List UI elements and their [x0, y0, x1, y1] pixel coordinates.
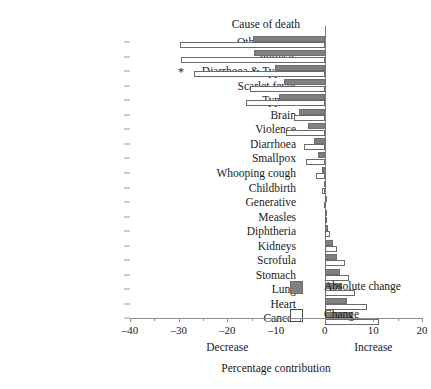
bar-absolute-change: [253, 36, 325, 42]
bar-absolute-change: [322, 167, 325, 173]
bar-change: [324, 202, 326, 208]
bar-change: [306, 159, 324, 165]
bar-absolute-change: [254, 50, 325, 56]
bar-absolute-change: [325, 254, 338, 260]
x-minor-tick: [203, 318, 204, 321]
bar-absolute-change: [279, 94, 325, 100]
bar-absolute-change: [325, 269, 341, 275]
bar-change: [322, 188, 325, 194]
bar-absolute-change: [324, 181, 326, 187]
bar-absolute-change: [325, 298, 347, 304]
x-axis-title: Percentage contribution: [221, 362, 331, 374]
chart-figure: Cause of death Other causesPhthisisDiarr…: [0, 0, 431, 389]
bar-absolute-change: [299, 109, 324, 115]
bar-change: [325, 246, 338, 252]
bar-change: [325, 231, 331, 237]
x-tick: [422, 318, 423, 322]
bar-absolute-change: [325, 196, 327, 202]
bar-change: [325, 260, 345, 266]
x-minor-tick: [154, 318, 155, 321]
x-tick: [276, 318, 277, 322]
bar-change: [316, 173, 325, 179]
bar-change: [181, 57, 325, 63]
x-minor-tick: [349, 318, 350, 321]
asterisk-annotation: *: [178, 67, 184, 77]
bar-change: [246, 100, 325, 106]
x-tick: [179, 318, 180, 322]
bar-change: [180, 42, 325, 48]
x-minor-tick: [300, 318, 301, 321]
x-tick-label: –40: [122, 324, 139, 336]
bar-absolute-change: [284, 79, 324, 85]
bar-change: [325, 217, 327, 223]
bar-change: [286, 130, 325, 136]
bar-absolute-change: [325, 210, 327, 216]
plot-area: * Absolute change Change: [130, 26, 422, 318]
bar-absolute-change: [325, 240, 333, 246]
x-tick-label: 10: [368, 324, 379, 336]
x-tick: [130, 318, 131, 322]
x-tick-label: 20: [417, 324, 428, 336]
x-axis-sublabel-increase: Increase: [354, 341, 392, 353]
x-tick: [325, 318, 326, 322]
bar-absolute-change: [308, 123, 325, 129]
bar-absolute-change: [318, 152, 325, 158]
x-minor-tick: [252, 318, 253, 321]
bar-change: [194, 71, 324, 77]
x-tick: [227, 318, 228, 322]
bar-change: [304, 144, 325, 150]
x-tick-label: 0: [322, 324, 328, 336]
x-minor-tick: [398, 318, 399, 321]
legend-label-absolute-change: Absolute change: [324, 279, 401, 293]
bar-absolute-change: [275, 65, 325, 71]
x-tick: [373, 318, 374, 322]
x-tick-label: –30: [170, 324, 187, 336]
bar-change: [250, 86, 324, 92]
legend-swatch-absolute-change: [290, 281, 303, 294]
x-tick-label: –20: [219, 324, 236, 336]
bar-change: [294, 115, 324, 121]
bar-absolute-change: [325, 225, 328, 231]
x-tick-label: –10: [268, 324, 285, 336]
x-axis-sublabel-decrease: Decrease: [206, 341, 248, 353]
bar-absolute-change: [314, 138, 324, 144]
